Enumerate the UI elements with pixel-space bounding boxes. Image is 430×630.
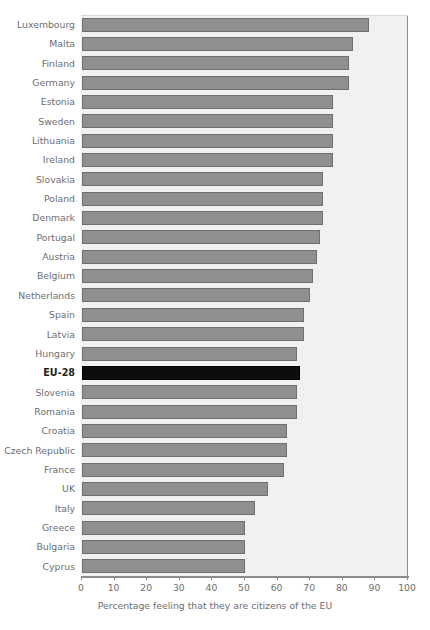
bar[interactable] <box>82 153 333 167</box>
bar[interactable] <box>82 114 333 128</box>
bar-label: Hungary <box>0 344 75 363</box>
bar-row[interactable]: UK <box>0 479 430 498</box>
bar-row[interactable]: Czech Republic <box>0 441 430 460</box>
bar[interactable] <box>82 76 349 90</box>
bar[interactable] <box>82 366 300 380</box>
bar-row[interactable]: Portugal <box>0 228 430 247</box>
bar[interactable] <box>82 230 320 244</box>
bar-rows-container: LuxembourgMaltaFinlandGermanyEstoniaSwed… <box>0 15 430 576</box>
bar-label: Spain <box>0 305 75 324</box>
bar-row[interactable]: Finland <box>0 54 430 73</box>
x-axis-title: Percentage feeling that they are citizen… <box>0 600 430 611</box>
bar[interactable] <box>82 424 287 438</box>
bar-label: Slovenia <box>0 383 75 402</box>
bar[interactable] <box>82 56 349 70</box>
bar[interactable] <box>82 37 353 51</box>
x-tick-mark <box>211 576 212 580</box>
bar-row[interactable]: Poland <box>0 189 430 208</box>
bar-row[interactable]: France <box>0 460 430 479</box>
bar-row[interactable]: Netherlands <box>0 286 430 305</box>
bar-row[interactable]: Belgium <box>0 266 430 285</box>
bar-row[interactable]: Ireland <box>0 150 430 169</box>
x-tick-mark <box>374 576 375 580</box>
bar-label: Malta <box>0 34 75 53</box>
bar-row[interactable]: Austria <box>0 247 430 266</box>
bar-row[interactable]: Slovenia <box>0 383 430 402</box>
bar-label: Estonia <box>0 92 75 111</box>
bar[interactable] <box>82 308 304 322</box>
bar-label: Belgium <box>0 266 75 285</box>
bar[interactable] <box>82 172 323 186</box>
bar-label: Sweden <box>0 112 75 131</box>
bar-row[interactable]: Italy <box>0 499 430 518</box>
bar-row[interactable]: Cyprus <box>0 557 430 576</box>
x-tick-mark <box>277 576 278 580</box>
bar[interactable] <box>82 385 297 399</box>
bar[interactable] <box>82 288 310 302</box>
x-tick-mark <box>114 576 115 580</box>
bar-row[interactable]: Hungary <box>0 344 430 363</box>
bar-label: Romania <box>0 402 75 421</box>
bar-row[interactable]: Denmark <box>0 208 430 227</box>
bar-row[interactable]: Bulgaria <box>0 537 430 556</box>
bar-row[interactable]: Lithuania <box>0 131 430 150</box>
bar-label: Ireland <box>0 150 75 169</box>
bar-label: Bulgaria <box>0 537 75 556</box>
bar-label: Germany <box>0 73 75 92</box>
bar-label: Denmark <box>0 208 75 227</box>
x-axis-ticks: 0102030405060708090100 <box>0 576 430 602</box>
bar-row[interactable]: Sweden <box>0 112 430 131</box>
bar[interactable] <box>82 347 297 361</box>
bar-label: Latvia <box>0 325 75 344</box>
bar[interactable] <box>82 405 297 419</box>
bar[interactable] <box>82 134 333 148</box>
bar-chart: LuxembourgMaltaFinlandGermanyEstoniaSwed… <box>0 0 430 630</box>
bar-row[interactable]: Latvia <box>0 325 430 344</box>
bar-row[interactable]: Malta <box>0 34 430 53</box>
bar-label: Greece <box>0 518 75 537</box>
bar-row[interactable]: Germany <box>0 73 430 92</box>
bar[interactable] <box>82 269 313 283</box>
bar-label: Poland <box>0 189 75 208</box>
bar[interactable] <box>82 95 333 109</box>
bar[interactable] <box>82 540 245 554</box>
bar[interactable] <box>82 559 245 573</box>
bar-row[interactable]: Slovakia <box>0 170 430 189</box>
bar-row[interactable]: Croatia <box>0 421 430 440</box>
bar-row[interactable]: Spain <box>0 305 430 324</box>
x-tick-mark <box>146 576 147 580</box>
bar-row[interactable]: Estonia <box>0 92 430 111</box>
x-tick-label: 100 <box>387 582 427 593</box>
bar[interactable] <box>82 250 317 264</box>
bar-label: Netherlands <box>0 286 75 305</box>
bar-label: Lithuania <box>0 131 75 150</box>
bar[interactable] <box>82 443 287 457</box>
bar-label: Portugal <box>0 228 75 247</box>
bar-row[interactable]: Romania <box>0 402 430 421</box>
bar-label: Cyprus <box>0 557 75 576</box>
x-tick-mark <box>309 576 310 580</box>
bar-label: Luxembourg <box>0 15 75 34</box>
bar[interactable] <box>82 327 304 341</box>
bar[interactable] <box>82 501 255 515</box>
bar[interactable] <box>82 192 323 206</box>
bar[interactable] <box>82 18 369 32</box>
bar-label: Croatia <box>0 421 75 440</box>
bar-label: Austria <box>0 247 75 266</box>
bar[interactable] <box>82 482 268 496</box>
bar-label: Czech Republic <box>0 441 75 460</box>
bar[interactable] <box>82 211 323 225</box>
bar-label: Italy <box>0 499 75 518</box>
bar-row[interactable]: EU-28 <box>0 363 430 382</box>
bar-label: UK <box>0 479 75 498</box>
bar-label: EU-28 <box>0 363 75 382</box>
bar[interactable] <box>82 521 245 535</box>
x-tick-mark <box>407 576 408 580</box>
bar-row[interactable]: Luxembourg <box>0 15 430 34</box>
bar[interactable] <box>82 463 284 477</box>
bar-row[interactable]: Greece <box>0 518 430 537</box>
bar-label: Slovakia <box>0 170 75 189</box>
bar-label: France <box>0 460 75 479</box>
bar-label: Finland <box>0 54 75 73</box>
x-tick-mark <box>342 576 343 580</box>
